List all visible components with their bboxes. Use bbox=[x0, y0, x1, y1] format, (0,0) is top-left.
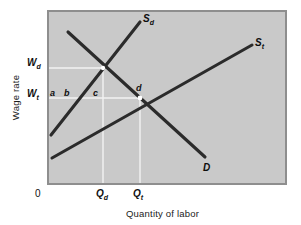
x-axis-title: Quantity of labor bbox=[126, 208, 199, 219]
curve-label-demand: D bbox=[203, 162, 210, 173]
x-tick-qt: Qt bbox=[133, 188, 143, 201]
plot-area bbox=[47, 10, 287, 185]
x-tick-qd-sub: d bbox=[104, 194, 108, 201]
y-tick-wt-sub: t bbox=[36, 94, 38, 101]
y-tick-wd-sub: d bbox=[36, 63, 40, 70]
curve-label-sd-text: S bbox=[143, 13, 150, 24]
y-tick-wd: Wd bbox=[27, 57, 41, 70]
x-tick-qd: Qd bbox=[96, 188, 108, 201]
curve-label-st-sub: t bbox=[262, 43, 264, 50]
area-label-c: c bbox=[93, 88, 98, 98]
origin-label: 0 bbox=[35, 188, 41, 199]
x-tick-qt-text: Q bbox=[133, 188, 141, 199]
y-tick-wt: Wt bbox=[27, 88, 39, 101]
y-axis-title: Wage rate bbox=[10, 66, 21, 130]
curve-label-d-text: D bbox=[203, 162, 210, 173]
x-tick-qd-text: Q bbox=[96, 188, 104, 199]
x-tick-qt-sub: t bbox=[141, 194, 143, 201]
area-label-a: a bbox=[50, 88, 55, 98]
curve-label-supply-domestic: Sd bbox=[143, 13, 154, 26]
curve-label-supply-total: St bbox=[255, 37, 264, 50]
curve-label-sd-sub: d bbox=[150, 19, 154, 26]
figure-container: Wage rate Quantity of labor 0 Wd Wt Qd Q… bbox=[0, 0, 301, 225]
area-label-b: b bbox=[64, 88, 70, 98]
area-label-d: d bbox=[136, 83, 142, 93]
curve-label-st-text: S bbox=[255, 37, 262, 48]
